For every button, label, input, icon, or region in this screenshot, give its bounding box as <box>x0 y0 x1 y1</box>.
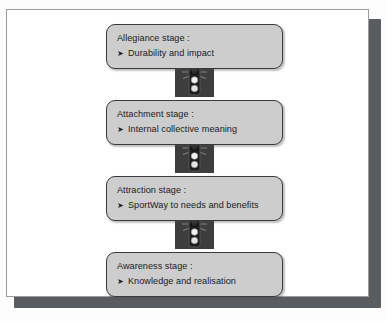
stage-detail-row: ➤ Knowledge and realisation <box>117 275 273 288</box>
stage-title: Allegiance stage : <box>117 32 273 45</box>
traffic-lamp-amber <box>191 153 198 160</box>
scanned-figure: Allegiance stage : ➤ Durability and impa… <box>0 0 387 321</box>
stage-box-allegiance[interactable]: Allegiance stage : ➤ Durability and impa… <box>106 24 283 69</box>
stage-box-awareness[interactable]: Awareness stage : ➤ Knowledge and realis… <box>106 252 283 297</box>
traffic-lamp-green <box>191 237 198 244</box>
arrow-bullet-icon: ➤ <box>117 47 128 60</box>
stage-detail: Durability and impact <box>128 47 214 60</box>
stage-title: Attraction stage : <box>117 184 273 197</box>
traffic-lamp-amber <box>191 229 198 236</box>
stage-title: Attachment stage : <box>117 108 273 121</box>
stage-title: Awareness stage : <box>117 260 273 273</box>
traffic-lamp-amber <box>191 77 198 84</box>
stage-detail: Internal collective meaning <box>128 123 237 136</box>
arrow-bullet-icon: ➤ <box>117 199 128 212</box>
traffic-lamp-green <box>191 161 198 168</box>
stage-ladder-diagram: Allegiance stage : ➤ Durability and impa… <box>7 10 370 298</box>
figure-page: Allegiance stage : ➤ Durability and impa… <box>6 9 369 297</box>
traffic-lamp-green <box>191 85 198 92</box>
arrow-bullet-icon: ➤ <box>117 275 128 288</box>
stage-detail-row: ➤ Durability and impact <box>117 47 273 60</box>
stage-box-attraction[interactable]: Attraction stage : ➤ SportWay to needs a… <box>106 176 283 221</box>
stage-box-attachment[interactable]: Attachment stage : ➤ Internal collective… <box>106 100 283 145</box>
arrow-bullet-icon: ➤ <box>117 123 128 136</box>
stage-detail: Knowledge and realisation <box>128 275 236 288</box>
stage-detail-row: ➤ Internal collective meaning <box>117 123 273 136</box>
stage-detail-row: ➤ SportWay to needs and benefits <box>117 199 273 212</box>
stage-detail: SportWay to needs and benefits <box>128 199 259 212</box>
